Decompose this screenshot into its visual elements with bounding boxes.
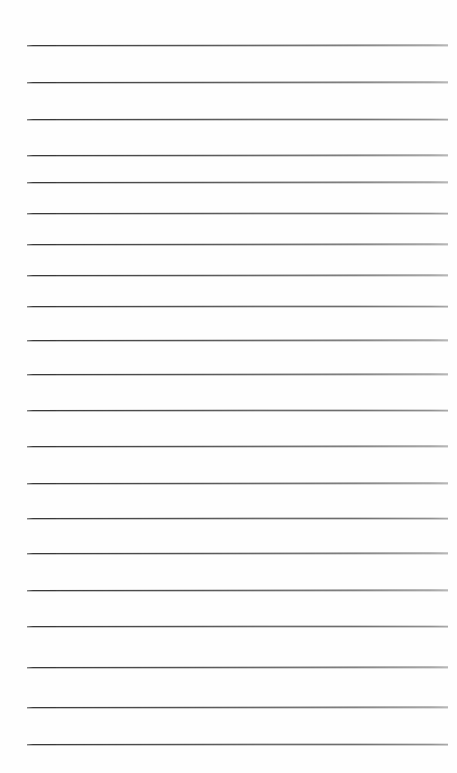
ruled-line-stroke xyxy=(27,82,448,84)
ruled-line-stroke xyxy=(27,707,448,709)
ruled-line-stroke xyxy=(27,590,448,592)
ruled-line xyxy=(0,306,457,309)
ruled-line xyxy=(0,483,457,486)
ruled-line-stroke xyxy=(27,626,448,628)
ruled-line xyxy=(0,45,457,48)
ruled-line-stroke xyxy=(27,410,448,412)
ruled-line xyxy=(0,518,457,521)
ruled-line xyxy=(0,553,457,556)
ruled-line xyxy=(0,213,457,216)
ruled-line-stroke xyxy=(27,339,448,341)
ruled-line-stroke xyxy=(27,518,448,520)
lined-paper-page xyxy=(0,0,457,773)
ruled-line-stroke xyxy=(27,213,448,215)
ruled-line xyxy=(0,119,457,122)
ruled-line xyxy=(0,446,457,449)
ruled-line xyxy=(0,340,457,343)
ruled-line-stroke xyxy=(27,483,448,485)
ruled-line-stroke xyxy=(27,666,448,668)
ruled-line-stroke xyxy=(27,182,448,184)
ruled-line xyxy=(0,410,457,413)
ruled-line xyxy=(0,590,457,593)
ruled-line-stroke xyxy=(27,275,448,277)
ruled-line-stroke xyxy=(27,306,448,308)
ruled-line xyxy=(0,82,457,85)
ruled-line xyxy=(0,626,457,629)
ruled-line-stroke xyxy=(27,119,448,121)
ruled-line-stroke xyxy=(27,243,448,245)
ruled-line-stroke xyxy=(27,445,448,447)
ruled-line xyxy=(0,744,457,747)
ruled-line-stroke xyxy=(27,552,448,554)
ruled-line xyxy=(0,275,457,278)
ruled-line-stroke xyxy=(27,744,448,746)
ruled-line xyxy=(0,182,457,185)
ruled-lines-area xyxy=(0,0,457,773)
ruled-line xyxy=(0,244,457,247)
ruled-line-stroke xyxy=(27,154,448,156)
ruled-line-stroke xyxy=(27,44,448,46)
ruled-line xyxy=(0,667,457,670)
ruled-line xyxy=(0,707,457,710)
ruled-line-stroke xyxy=(27,374,448,376)
ruled-line xyxy=(0,374,457,377)
ruled-line xyxy=(0,155,457,158)
